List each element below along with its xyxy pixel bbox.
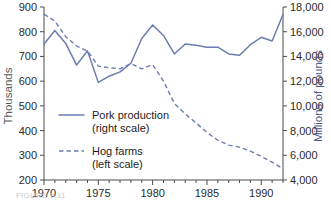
figure-container: 200300400500600700800900 4,0006,0008,000… [0, 0, 331, 202]
left-axis-title: Thousands [2, 67, 14, 124]
left-tick-label: 500 [19, 100, 37, 112]
legend-label-pork-production: Pork production [92, 109, 169, 121]
right-axis-title: Millions of pounds [312, 50, 324, 142]
left-tick-label: 300 [19, 149, 37, 161]
legend-label-hog-farms: Hog farms [92, 145, 143, 157]
series-pork-production [44, 14, 283, 82]
right-tick-label: 18,000 [290, 1, 324, 13]
legend-sublabel-pork-production: (right scale) [92, 122, 149, 134]
data-series-layer [44, 14, 283, 168]
left-tick-label: 200 [19, 174, 37, 186]
left-axis-ticks: 200300400500600700800900 [19, 1, 44, 186]
left-tick-label: 900 [19, 1, 37, 13]
chart-axes [44, 7, 283, 180]
right-tick-label: 6,000 [290, 149, 318, 161]
right-tick-label: 16,000 [290, 26, 324, 38]
figure-caption: FIGURE 9.11 [16, 193, 66, 200]
series-hog-farms [44, 14, 283, 168]
left-tick-label: 800 [19, 26, 37, 38]
chart-legend: Pork production (right scale) Hog farms … [59, 109, 169, 170]
figure-caption-strip: FIGURE 9.11 [0, 193, 331, 202]
legend-sublabel-hog-farms: (left scale) [92, 158, 143, 170]
line-chart: 200300400500600700800900 4,0006,0008,000… [0, 0, 331, 202]
left-tick-label: 600 [19, 75, 37, 87]
left-tick-label: 400 [19, 125, 37, 137]
axis-frame [44, 7, 283, 180]
left-tick-label: 700 [19, 50, 37, 62]
right-tick-label: 4,000 [290, 174, 318, 186]
